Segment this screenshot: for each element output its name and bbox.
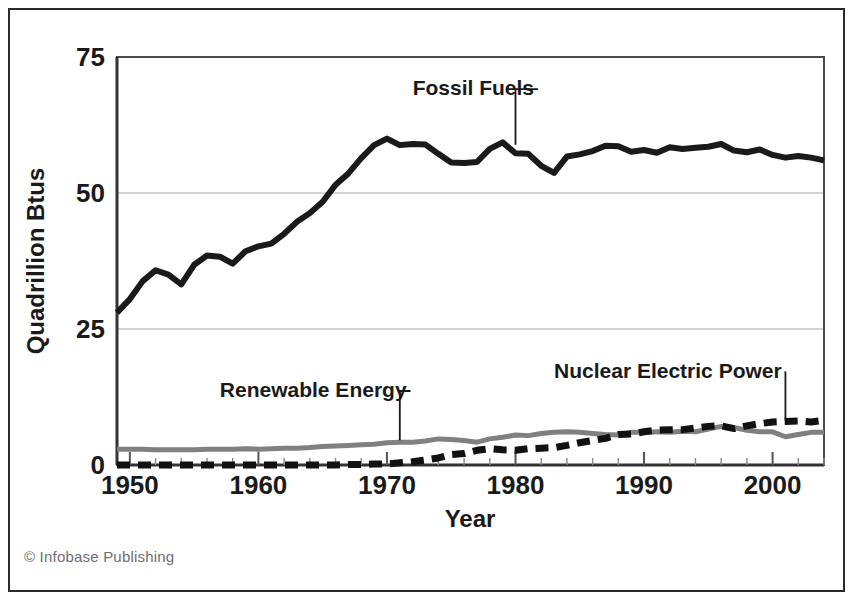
figure-root: 0 25 50 75 1950 1960 1970 1980 1990 2000… xyxy=(0,0,861,603)
x-tick-label: 1990 xyxy=(615,470,673,500)
series-label-nuclear-electric-power: Nuclear Electric Power xyxy=(554,359,782,382)
x-tick-label: 1960 xyxy=(229,470,287,500)
y-tick-label: 75 xyxy=(76,42,105,72)
annotation-leader-lines xyxy=(400,89,786,440)
x-axis-title: Year xyxy=(445,505,496,532)
x-tick-label: 1980 xyxy=(487,470,545,500)
y-tick-label: 50 xyxy=(76,178,105,208)
line-chart: 0 25 50 75 1950 1960 1970 1980 1990 2000… xyxy=(0,0,861,603)
x-tick-label: 1950 xyxy=(101,470,159,500)
x-tick-label: 1970 xyxy=(358,470,416,500)
series-paths xyxy=(117,139,824,465)
series-label-fossil-fuels: Fossil Fuels xyxy=(413,76,534,99)
series-line-fossil-fuels xyxy=(117,139,824,313)
series-label-renewable-energy: Renewable Energy xyxy=(220,378,407,401)
y-axis-title: Quadrillion Btus xyxy=(22,168,49,355)
chart-canvas: 0 25 50 75 1950 1960 1970 1980 1990 2000… xyxy=(0,0,861,603)
y-tick-label: 25 xyxy=(76,314,105,344)
copyright-credit: © Infobase Publishing xyxy=(24,548,174,565)
x-tick-label: 2000 xyxy=(744,470,802,500)
series-line-renewable-energy xyxy=(117,426,824,449)
